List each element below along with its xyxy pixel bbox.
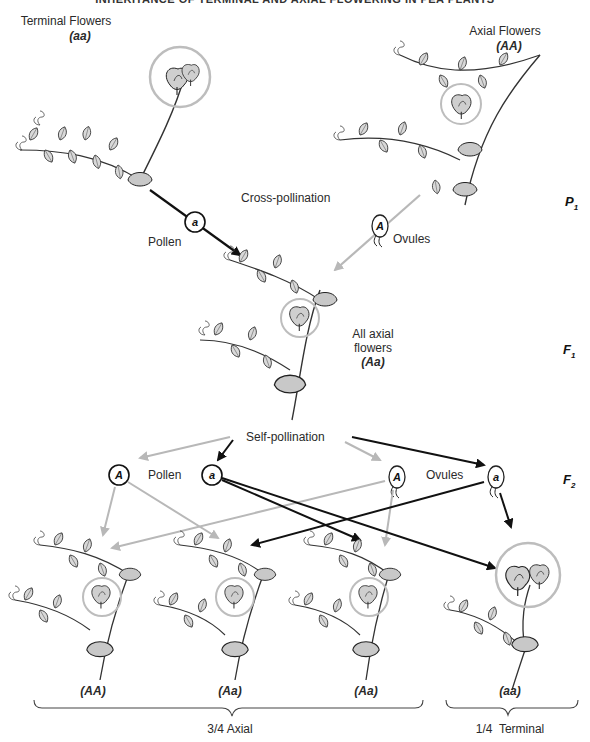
f2-ovules-label: Ovules — [426, 468, 463, 482]
terminal-brace — [446, 700, 578, 715]
generation-f1: F1 — [563, 342, 575, 360]
offspring-genotype-2: (Aa) — [218, 684, 241, 698]
plant-axial-parent — [334, 41, 540, 205]
f2-ovule-a: a — [488, 466, 504, 498]
axial-brace — [34, 700, 423, 716]
svg-text:A: A — [114, 469, 123, 481]
diagram: INHERITANCE OF TERMINAL AND AXIAL FLOWER… — [0, 0, 590, 742]
terminal-parent-label: Terminal Flowers — [21, 14, 112, 28]
diagram-graphics: a A — [0, 0, 590, 742]
offspring-plant-AA — [9, 531, 141, 680]
p1-ovule-gamete: A — [372, 215, 388, 247]
svg-text:a: a — [493, 471, 499, 483]
p1-ovules-label: Ovules — [393, 232, 430, 246]
f2-pollen-a: a — [202, 465, 222, 485]
svg-text:a: a — [192, 216, 198, 228]
offspring-genotype-3: (Aa) — [354, 684, 377, 698]
terminal-ratio-label: 1/4 Terminal — [476, 722, 544, 736]
axial-parent-genotype: (AA) — [496, 39, 521, 53]
f1-label: All axial flowers (Aa) — [352, 327, 393, 369]
offspring-plant-Aa-2 — [289, 531, 401, 680]
p1-pollen-label: Pollen — [148, 235, 181, 249]
axial-ratio-label: 3/4 Axial — [207, 722, 252, 736]
terminal-parent-genotype: (aa) — [69, 29, 90, 43]
plant-terminal-parent — [16, 64, 199, 186]
self-pollination-label: Self-pollination — [246, 430, 325, 444]
cross-pollination-label: Cross-pollination — [241, 191, 330, 205]
svg-text:a: a — [209, 469, 215, 481]
f2-pollen-label: Pollen — [148, 468, 181, 482]
svg-text:A: A — [392, 471, 401, 483]
offspring-plant-Aa-1 — [154, 531, 276, 680]
offspring-genotype-4: (aa) — [499, 684, 520, 698]
f2-ovule-A: A — [389, 466, 405, 498]
axial-parent-label: Axial Flowers — [469, 24, 540, 38]
offspring-genotype-1: (AA) — [80, 684, 105, 698]
plant-f1 — [199, 246, 337, 420]
svg-text:A: A — [375, 220, 384, 232]
f2-pollen-A: A — [109, 465, 129, 485]
generation-p1: P1 — [565, 194, 578, 212]
generation-f2: F2 — [563, 472, 575, 490]
p1-pollen-gamete: a — [185, 212, 205, 232]
